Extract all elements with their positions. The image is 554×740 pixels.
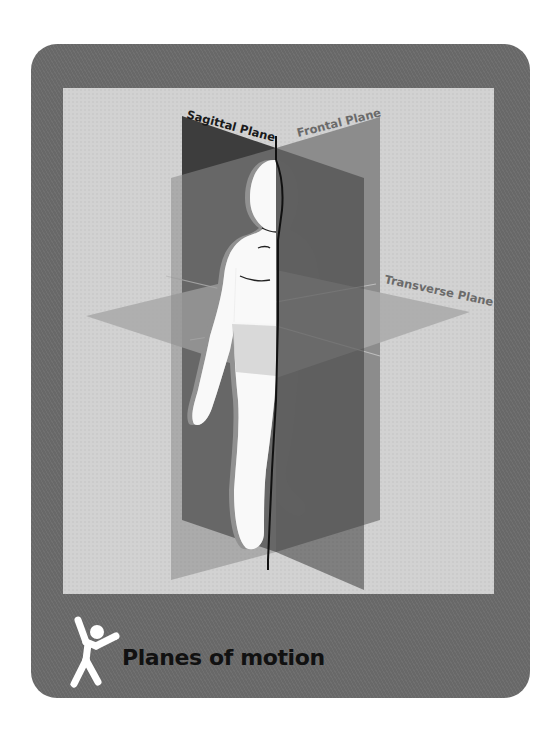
card-title: Planes of motion [122,645,325,670]
stick-figure-jumping-icon [66,612,126,688]
card-footer: Planes of motion [66,608,325,688]
shorts-shade [232,324,276,376]
planes-of-motion-card-stage: Sagittal Plane Frontal Plane Transverse … [0,0,554,740]
frontal-plane-front [276,148,364,590]
